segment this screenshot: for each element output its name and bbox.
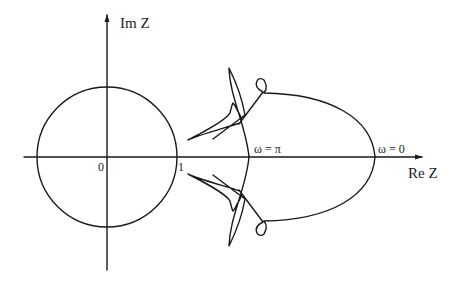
origin-label: 0 (98, 160, 104, 174)
omega-zero-label: ω = 0 (378, 142, 405, 156)
diagram-svg: Im Z Re Z 0 1 ω = π ω = 0 (0, 0, 461, 281)
diagram-canvas: Im Z Re Z 0 1 ω = π ω = 0 (0, 0, 461, 281)
imaginary-axis-label: Im Z (120, 15, 150, 31)
frequency-response-curve-upper (188, 68, 375, 157)
real-axis-label: Re Z (408, 165, 438, 181)
frequency-response-curve-lower (188, 157, 375, 246)
unit-label: 1 (178, 160, 184, 174)
omega-pi-label: ω = π (254, 142, 281, 156)
